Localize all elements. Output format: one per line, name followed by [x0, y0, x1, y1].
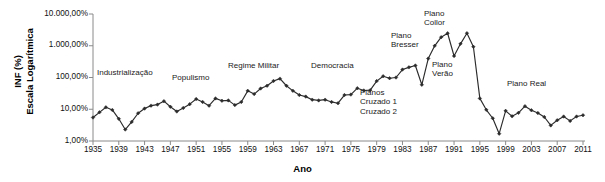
data-point — [330, 100, 334, 104]
data-point — [317, 99, 321, 103]
data-point — [388, 76, 392, 80]
data-series-line — [93, 33, 583, 133]
inflation-log-chart: INF (%) Escala Logarítmica 10.000,00%1.0… — [0, 0, 605, 182]
data-point — [323, 98, 327, 102]
data-point — [304, 95, 308, 99]
data-point — [420, 83, 424, 87]
data-point — [581, 113, 585, 117]
data-point — [149, 104, 153, 108]
data-point — [407, 66, 411, 70]
data-point — [497, 132, 501, 136]
data-point — [362, 89, 366, 93]
data-point — [310, 98, 314, 102]
data-point — [414, 64, 418, 67]
data-point — [472, 45, 476, 49]
plot-area — [0, 0, 605, 182]
data-point-markers — [91, 31, 585, 135]
data-point — [220, 99, 224, 103]
